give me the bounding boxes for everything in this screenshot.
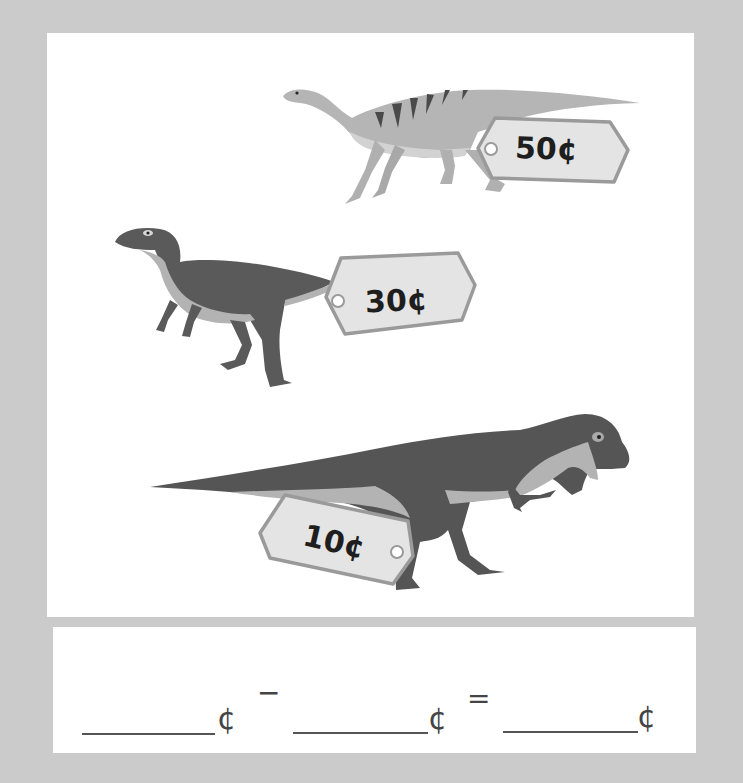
striped-dinosaur-image	[283, 90, 640, 204]
equals-sign: =	[467, 685, 490, 713]
dinosaur-price-panel: 50¢ 30¢ 10¢	[47, 33, 694, 617]
price-tag-50: 50¢	[514, 130, 578, 167]
minus-sign: −	[257, 679, 280, 707]
cent-sign-1: ¢	[217, 704, 236, 734]
cent-sign-3: ¢	[637, 702, 656, 732]
trex-dinosaur-image	[150, 414, 629, 590]
answer-blank-2[interactable]	[293, 732, 428, 734]
answer-blank-1[interactable]	[82, 733, 215, 735]
price-tag-30: 30¢	[364, 281, 428, 319]
answer-blank-3[interactable]	[503, 731, 638, 733]
cent-sign-2: ¢	[428, 704, 447, 734]
equation-panel: ¢ − ¢ = ¢	[53, 627, 696, 753]
